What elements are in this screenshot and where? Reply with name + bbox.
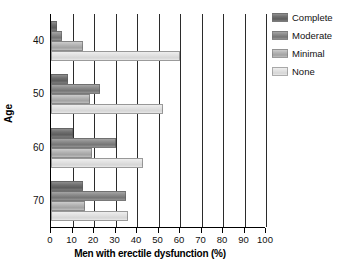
x-tick-70 [201,228,202,233]
legend-label-moderate: Moderate [292,31,332,41]
legend-label-complete: Complete [292,13,333,23]
x-axis-title: Men with erectile dysfunction (%) [0,248,300,259]
x-tick-10 [72,228,73,233]
bar-minimal-age-50 [51,94,90,104]
legend-label-none: None [292,67,315,77]
x-tick-40 [136,228,137,233]
bar-minimal-age-60 [51,148,92,158]
bar-group-age-50 [51,74,265,114]
bar-group-age-40 [51,21,265,61]
x-tick-90 [244,228,245,233]
legend-swatch-moderate-icon [272,31,288,40]
bar-chart: Age Men with erectile dysfunction (%) Co… [0,0,345,270]
x-tick-80 [222,228,223,233]
x-tick-0 [50,228,51,233]
legend-swatch-minimal-icon [272,49,288,58]
bar-complete-age-60 [51,128,73,138]
bar-none-age-60 [51,158,143,168]
y-tick-label-50: 50 [18,88,44,99]
bar-group-age-60 [51,128,265,168]
x-tick-label-100: 100 [251,234,279,245]
plot-area [50,14,265,228]
x-tick-60 [179,228,180,233]
bar-minimal-age-70 [51,201,85,211]
bar-moderate-age-60 [51,138,116,148]
x-tick-50 [158,228,159,233]
legend-item-complete[interactable]: Complete [272,12,344,23]
legend-item-minimal[interactable]: Minimal [272,48,344,59]
bar-minimal-age-40 [51,41,83,51]
bar-none-age-50 [51,104,163,114]
x-tick-100 [265,228,266,233]
y-tick-label-70: 70 [18,195,44,206]
bar-none-age-40 [51,51,180,61]
bar-moderate-age-50 [51,84,100,94]
y-axis-title: Age [3,94,14,134]
legend-item-moderate[interactable]: Moderate [272,30,344,41]
x-tick-30 [115,228,116,233]
y-tick-label-60: 60 [18,142,44,153]
gridline-100 [266,14,267,227]
bar-complete-age-50 [51,74,68,84]
legend-label-minimal: Minimal [292,49,325,59]
bar-moderate-age-40 [51,31,62,41]
legend-swatch-complete-icon [272,13,288,22]
bar-group-age-70 [51,181,265,221]
bar-none-age-70 [51,211,128,221]
chart-legend: CompleteModerateMinimalNone [272,12,344,84]
bar-moderate-age-70 [51,191,126,201]
y-tick-label-40: 40 [18,35,44,46]
legend-swatch-none-icon [272,67,288,76]
bar-complete-age-40 [51,21,57,31]
x-tick-20 [93,228,94,233]
legend-item-none[interactable]: None [272,66,344,77]
bar-complete-age-70 [51,181,83,191]
